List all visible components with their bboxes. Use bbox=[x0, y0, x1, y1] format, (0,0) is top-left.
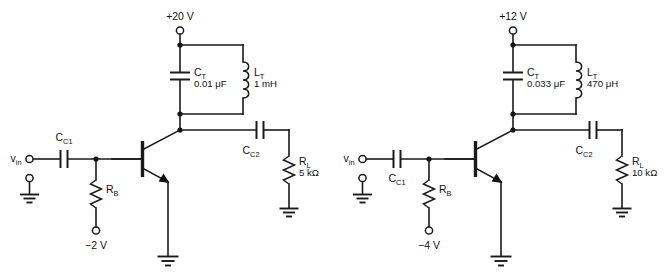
supply-terminal-a bbox=[176, 27, 183, 34]
emitter-ground-symbol-b bbox=[491, 257, 512, 266]
tank-inductor-coil-a bbox=[243, 62, 249, 98]
bias-supply-label-a: −2 V bbox=[85, 239, 107, 251]
output-capacitor-label-b: CC2 bbox=[575, 144, 592, 159]
circuit-diagram-a: +20 V CT 0.01 μF LT 1 mH bbox=[0, 0, 333, 276]
load-resistor-body-b bbox=[617, 156, 628, 184]
input-capacitor-label-b: CC1 bbox=[388, 172, 405, 187]
load-resistor-value-b: 10 kΩ bbox=[632, 167, 657, 178]
transistor-collector-lead-a bbox=[144, 130, 180, 149]
bias-resistor-body-a bbox=[91, 180, 102, 208]
output-capacitor-label-a: CC2 bbox=[242, 144, 259, 159]
circuit-diagram-b: +12 V CT 0.033 μF LT 470 μH bbox=[333, 0, 665, 276]
load-resistor-value-a: 5 kΩ bbox=[299, 167, 319, 178]
tank-capacitor-value-b: 0.033 μF bbox=[527, 78, 565, 89]
input-label-a: vin bbox=[10, 152, 21, 167]
transistor-collector-lead-b bbox=[477, 130, 513, 149]
load-ground-symbol-a bbox=[280, 209, 299, 217]
bias-supply-label-b: −4 V bbox=[418, 239, 440, 251]
input-terminal-b[interactable] bbox=[359, 155, 366, 162]
bias-resistor-body-b bbox=[424, 180, 435, 208]
input-ground-terminal-b bbox=[359, 174, 366, 181]
bias-supply-terminal-b bbox=[425, 227, 432, 234]
tank-inductor-value-a: 1 mH bbox=[254, 78, 277, 89]
tank-inductor-coil-b bbox=[576, 62, 582, 98]
input-ground-symbol-a bbox=[20, 195, 39, 203]
input-ground-terminal-a bbox=[26, 174, 33, 181]
input-label-b: vin bbox=[343, 152, 354, 167]
supply-voltage-label-a: +20 V bbox=[166, 10, 194, 22]
tank-inductor-value-b: 470 μH bbox=[587, 78, 618, 89]
input-capacitor-label-a: CC1 bbox=[55, 131, 72, 146]
supply-terminal-b bbox=[509, 27, 516, 34]
bias-supply-terminal-a bbox=[92, 227, 99, 234]
bias-resistor-label-a: RB bbox=[106, 183, 119, 198]
tank-capacitor-value-a: 0.01 μF bbox=[194, 78, 227, 89]
load-resistor-body-a bbox=[284, 156, 295, 184]
input-terminal-a[interactable] bbox=[26, 155, 33, 162]
circuit-figure: +20 V CT 0.01 μF LT 1 mH bbox=[0, 0, 665, 276]
emitter-ground-symbol-a bbox=[158, 257, 179, 266]
load-ground-symbol-b bbox=[613, 209, 632, 217]
input-ground-symbol-b bbox=[353, 195, 372, 203]
bias-resistor-label-b: RB bbox=[439, 183, 452, 198]
supply-voltage-label-b: +12 V bbox=[499, 10, 527, 22]
